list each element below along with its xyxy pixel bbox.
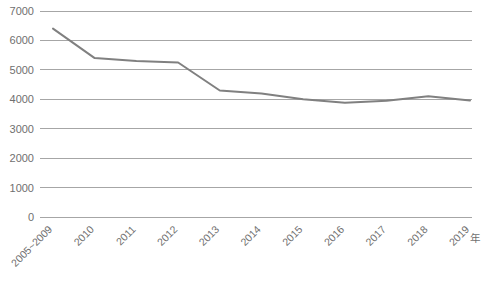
y-axis-tick-label: 1000 xyxy=(10,182,34,194)
x-axis-tick-label: 2017 xyxy=(363,223,388,248)
y-axis-tick-label: 5000 xyxy=(10,64,34,76)
chart-canvas: 70006000500040003000200010000 2005~20092… xyxy=(0,0,486,289)
x-axis-tick-label: 2013 xyxy=(196,223,221,248)
x-axis-tick-label: 2011 xyxy=(113,223,138,248)
x-axis-tick-label: 2014 xyxy=(238,223,263,248)
y-axis-tick-label: 4000 xyxy=(10,93,34,105)
y-axis-tick-label: 2000 xyxy=(10,152,34,164)
x-axis-tick-label: 2019 xyxy=(446,223,471,248)
x-axis-tick-label: 2012 xyxy=(155,223,180,248)
line-chart: 70006000500040003000200010000 2005~20092… xyxy=(0,0,486,289)
gridlines-group xyxy=(40,11,472,217)
x-axis-tick-label: 2015 xyxy=(280,223,305,248)
x-axis-tick-labels: 2005~20092010201120122013201420152016201… xyxy=(9,223,472,269)
x-axis-tick-label: 2010 xyxy=(71,223,96,248)
data-series-group xyxy=(53,29,470,103)
x-axis-unit-label: 年 xyxy=(470,232,480,244)
y-axis-tick-label: 6000 xyxy=(10,34,34,46)
y-axis-tick-label: 0 xyxy=(28,211,34,223)
x-axis-tick-label: 2005~2009 xyxy=(9,223,55,269)
y-axis-tick-label: 7000 xyxy=(10,5,34,17)
series-line-0 xyxy=(53,29,470,103)
y-axis-tick-label: 3000 xyxy=(10,123,34,135)
x-axis-tick-label: 2016 xyxy=(321,223,346,248)
x-axis-tick-label: 2018 xyxy=(405,223,430,248)
y-axis-tick-labels: 70006000500040003000200010000 xyxy=(10,5,34,223)
